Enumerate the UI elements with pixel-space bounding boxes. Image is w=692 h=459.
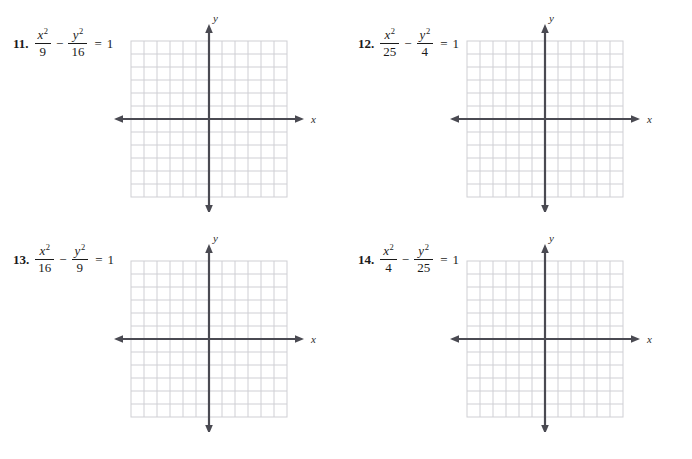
minus-operator: −	[404, 37, 411, 50]
equation-14: 14. x2 4 − y2 25 = 1	[358, 244, 459, 274]
problem-number-11: 11.	[13, 37, 29, 50]
fraction-denominator: 9	[37, 44, 50, 59]
equals-sign: =	[440, 37, 447, 50]
arrowhead-left	[450, 335, 459, 343]
equation-12: 12. x2 25 − y2 4 = 1	[358, 28, 459, 58]
fraction-numerator: y2	[70, 28, 87, 43]
coordinate-grid-11[interactable]: x y	[112, 12, 317, 212]
equals-sign: =	[95, 253, 102, 266]
grid-svg: x y	[112, 232, 317, 432]
fraction-y-squared-over-b: y2 4	[417, 28, 434, 58]
arrowhead-down	[205, 425, 213, 432]
fraction-numerator: y2	[72, 244, 89, 259]
problem-number-14: 14.	[358, 253, 374, 266]
arrowhead-right	[631, 335, 640, 343]
grid-svg: x y	[448, 12, 653, 212]
exponent: 2	[391, 26, 395, 36]
minus-operator: −	[59, 253, 66, 266]
arrowhead-up	[205, 244, 213, 253]
fraction-denominator: 9	[74, 260, 87, 275]
arrowhead-down	[541, 425, 549, 432]
exponent: 2	[79, 26, 83, 36]
fraction-y-squared-over-b: y2 9	[72, 244, 89, 274]
exponent: 2	[44, 26, 48, 36]
y-axis-label: y	[548, 12, 554, 24]
fraction-denominator: 25	[380, 44, 399, 59]
arrowhead-right	[295, 115, 304, 123]
fraction-denominator: 4	[382, 260, 395, 275]
coordinate-grid-12[interactable]: x y	[448, 12, 653, 212]
arrowhead-down	[541, 205, 549, 212]
arrowhead-left	[450, 115, 459, 123]
arrowhead-down	[205, 205, 213, 212]
minus-operator: −	[56, 37, 63, 50]
arrowhead-left	[114, 335, 123, 343]
fraction-y-squared-over-b: y2 16	[68, 28, 87, 58]
y-axis-label: y	[212, 232, 218, 244]
arrowhead-right	[295, 335, 304, 343]
arrowhead-up	[205, 24, 213, 33]
equals-sign: =	[440, 253, 447, 266]
coordinate-grid-13[interactable]: x y	[112, 232, 317, 432]
fraction-denominator: 16	[35, 260, 54, 275]
exponent: 2	[425, 242, 429, 252]
fraction-denominator: 4	[419, 44, 432, 59]
equals-sign: =	[94, 37, 101, 50]
x-axis-label: x	[646, 333, 652, 345]
equation-11: 11. x2 9 − y2 16 = 1	[13, 28, 113, 58]
fraction-x-squared-over-a: x2 4	[380, 244, 397, 274]
fraction-y-squared-over-b: y2 25	[414, 244, 433, 274]
x-axis-label: x	[646, 113, 652, 125]
y-axis-label: y	[212, 12, 218, 24]
y-axis-label: y	[548, 232, 554, 244]
grid-svg: x y	[448, 232, 653, 432]
fraction-numerator: y2	[417, 28, 434, 43]
fraction-numerator: x2	[35, 28, 52, 43]
problem-number-13: 13.	[13, 253, 29, 266]
fraction-x-squared-over-a: x2 9	[35, 28, 52, 58]
x-axis-label: x	[310, 113, 316, 125]
x-axis-label: x	[310, 333, 316, 345]
exponent: 2	[46, 242, 50, 252]
arrowhead-left	[114, 115, 123, 123]
arrowhead-up	[541, 24, 549, 33]
equation-13: 13. x2 16 − y2 9 = 1	[13, 244, 114, 274]
arrowhead-up	[541, 244, 549, 253]
fraction-x-squared-over-a: x2 16	[35, 244, 54, 274]
fraction-numerator: x2	[36, 244, 53, 259]
fraction-denominator: 16	[68, 44, 87, 59]
fraction-numerator: x2	[381, 28, 398, 43]
fraction-x-squared-over-a: x2 25	[380, 28, 399, 58]
minus-operator: −	[402, 253, 409, 266]
problem-number-12: 12.	[358, 37, 374, 50]
exponent: 2	[426, 26, 430, 36]
coordinate-grid-14[interactable]: x y	[448, 232, 653, 432]
arrowhead-right	[631, 115, 640, 123]
fraction-numerator: x2	[380, 244, 397, 259]
fraction-numerator: y2	[415, 244, 432, 259]
exponent: 2	[81, 242, 85, 252]
grid-svg: x y	[112, 12, 317, 212]
exponent: 2	[390, 242, 394, 252]
fraction-denominator: 25	[414, 260, 433, 275]
